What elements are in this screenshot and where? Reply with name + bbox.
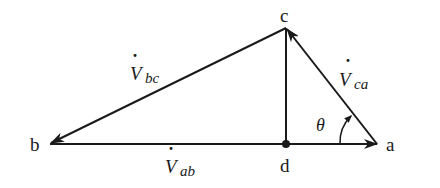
vbc-symbol: V [130,63,144,84]
label-vca: · V ca [339,51,368,92]
vca-subscript: ca [354,76,368,92]
vector-vbc [51,28,286,143]
vab-subscript: ab [180,163,196,179]
angle-arc-theta [340,116,351,144]
vbc-subscript: bc [145,70,160,86]
label-vbc: · V bc [130,46,160,86]
label-point-d: d [280,155,290,176]
vab-symbol: V [165,156,179,177]
phasor-diagram: a b c d · V bc · V ab · V ca θ [0,0,440,188]
label-theta: θ [316,115,325,135]
label-point-a: a [386,134,395,155]
point-d-dot [282,140,290,148]
vca-dot: · [345,51,351,71]
vca-symbol: V [339,69,353,90]
label-point-b: b [30,134,40,155]
label-point-c: c [280,5,288,26]
